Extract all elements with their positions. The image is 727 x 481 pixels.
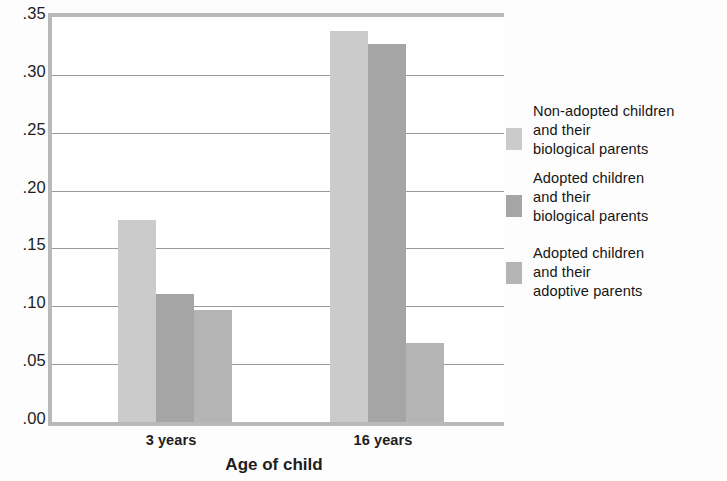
legend-label: Non-adopted childrenand theirbiological … [533,102,727,159]
gridline [52,75,504,76]
legend-swatch [506,262,522,284]
y-axis-tick-label: .00 [2,410,46,427]
bar [118,220,156,423]
y-axis-tick-label: .05 [2,352,46,369]
bar [194,310,232,422]
y-axis-tick-label: .25 [2,120,46,137]
legend-label-line: biological parents [533,207,727,226]
y-axis-tick-label: .35 [2,5,46,22]
y-axis-tick-label: .15 [2,236,46,253]
legend-label: Adopted childrenand theiradoptive parent… [533,244,727,301]
plot-area [48,13,504,426]
legend-label-line: Adopted children [533,169,727,188]
x-axis-title: Age of child [225,455,322,475]
y-axis-tick-label: .20 [2,178,46,195]
bar [156,294,194,422]
bar [406,343,444,422]
legend-swatch [506,195,522,217]
legend-label: Adopted childrenand theirbiological pare… [533,169,727,226]
y-axis-tick-labels: .00.05.10.15.20.25.30.35 [0,0,46,481]
y-axis-tick-label: .30 [2,63,46,80]
legend-label-line: Adopted children [533,244,727,263]
legend-label-line: Non-adopted children [533,102,727,121]
x-axis-tick-label: 3 years [146,432,197,448]
legend-label-line: and their [533,188,727,207]
y-axis-tick-label: .10 [2,294,46,311]
legend-swatch [506,128,522,150]
gridline [52,191,504,192]
legend-label-line: adoptive parents [533,282,727,301]
legend-label-line: and their [533,121,727,140]
bar [368,44,406,422]
legend-label-line: biological parents [533,140,727,159]
x-axis-tick-label: 16 years [354,432,413,448]
bar-chart: .00.05.10.15.20.25.30.35 3 years16 years… [0,0,727,481]
plot-inner [52,17,504,422]
gridline [52,133,504,134]
legend-label-line: and their [533,263,727,282]
bar [330,31,368,422]
